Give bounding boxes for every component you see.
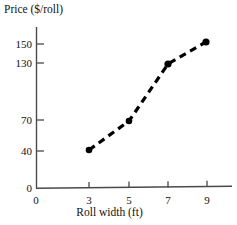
data-point-marker bbox=[126, 118, 133, 125]
y-tick-label-40: 40 bbox=[6, 145, 32, 157]
plot-area bbox=[0, 0, 237, 225]
x-axis-line bbox=[36, 186, 232, 188]
data-point-marker bbox=[164, 60, 171, 67]
data-point-marker bbox=[86, 147, 93, 154]
price-vs-roll-width-chart: Price ($/roll) 150 130 70 40 0 0 3 5 7 9… bbox=[0, 0, 237, 225]
data-point-marker bbox=[202, 38, 209, 45]
y-tick-label-130: 130 bbox=[6, 57, 32, 69]
y-tick-label-150: 150 bbox=[6, 38, 32, 50]
x-axis-title-text: Roll width (ft) bbox=[76, 205, 142, 219]
data-line-dashed bbox=[89, 42, 206, 150]
y-tick-label-70: 70 bbox=[6, 114, 32, 126]
y-tick-label-0: 0 bbox=[6, 182, 32, 194]
x-axis-title: Roll width (ft) bbox=[0, 205, 237, 219]
